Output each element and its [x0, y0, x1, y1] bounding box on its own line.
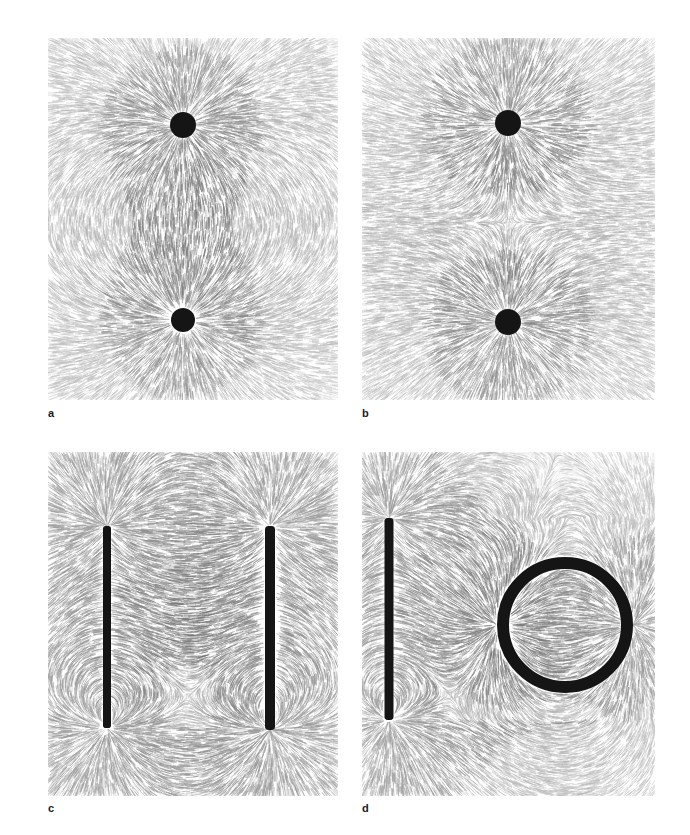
panel-label-d: d: [362, 803, 369, 814]
bar-magnet-right: [265, 526, 275, 730]
pole-dot-lower: [495, 309, 521, 335]
panel-label-c: c: [48, 803, 54, 814]
pole-dot-upper: [170, 112, 196, 138]
panel-b: [362, 38, 655, 400]
pole-dot-lower: [171, 308, 195, 332]
bar-magnet-left: [103, 526, 111, 728]
field-pattern-c: [48, 452, 338, 796]
field-pattern-a: [48, 38, 338, 400]
bar-magnet-left: [385, 518, 394, 720]
figure-magnetic-field-patterns: a b c d: [0, 0, 690, 835]
pole-dot-upper: [495, 110, 521, 136]
field-pattern-b: [362, 38, 655, 400]
panel-label-b: b: [362, 408, 369, 419]
panel-c: [48, 452, 338, 796]
panel-a: [48, 38, 338, 400]
field-pattern-d: [362, 452, 655, 796]
panel-label-a: a: [48, 408, 54, 419]
panel-d: [362, 452, 655, 796]
